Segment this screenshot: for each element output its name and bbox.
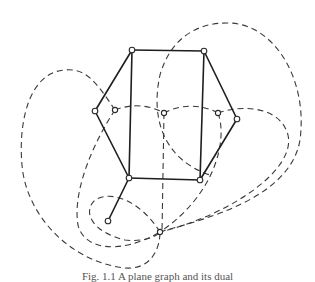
dual-edge-d1-d2 <box>115 106 164 113</box>
edge-F-A <box>95 50 132 111</box>
primal-vertices <box>92 47 240 224</box>
vertex-F <box>92 108 98 114</box>
dual-edge-d2-d3 <box>164 106 218 113</box>
edge-D-E <box>129 178 200 180</box>
dual-vertex-d1 <box>112 107 117 112</box>
dual-edge-left-outer-loop <box>21 70 160 268</box>
dual-edge-tall-loop <box>157 23 301 232</box>
dual-vertex-d4 <box>157 229 162 234</box>
edge-E-F <box>95 111 129 178</box>
primal-edges <box>95 50 237 221</box>
dual-vertex-d2 <box>161 110 166 115</box>
edge-B-D <box>200 51 204 180</box>
dual-edge-tail-loop <box>89 196 160 240</box>
edge-C-D <box>200 119 237 180</box>
edge-A-E <box>129 50 132 178</box>
vertex-B <box>201 48 207 54</box>
dual-edge-d2-d4 <box>162 113 164 232</box>
dual-edge-d3-down <box>160 113 221 232</box>
edge-A-B <box>132 50 204 51</box>
vertex-C <box>234 116 240 122</box>
figure-caption: Fig. 1.1 A plane graph and its dual <box>0 270 315 282</box>
vertex-D <box>197 177 203 183</box>
edge-B-C <box>204 51 237 119</box>
vertex-A <box>129 47 135 53</box>
vertex-T <box>105 218 111 224</box>
vertex-E <box>126 175 132 181</box>
edge-E-T <box>108 178 129 221</box>
dual-edge-d3-right-loop <box>160 108 289 232</box>
dual-vertex-d3 <box>215 110 220 115</box>
